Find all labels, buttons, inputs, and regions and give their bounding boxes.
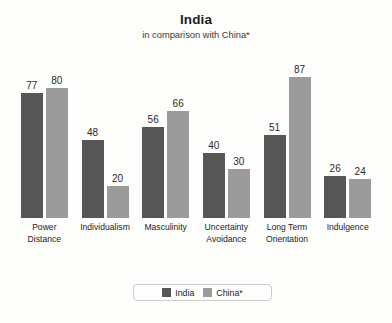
legend-swatch-icon-india bbox=[162, 288, 171, 297]
bar[interactable] bbox=[142, 127, 164, 218]
bar-value-label: 80 bbox=[42, 75, 72, 86]
bar[interactable] bbox=[228, 169, 250, 218]
bar[interactable] bbox=[324, 176, 346, 218]
category-label: PowerDistance bbox=[14, 222, 75, 245]
bar-group: 4030 bbox=[203, 54, 250, 218]
category-label: UncertaintyAvoidance bbox=[196, 222, 257, 245]
category-label-line: Orientation bbox=[257, 234, 318, 246]
bar-group: 2624 bbox=[324, 54, 371, 218]
bar[interactable] bbox=[82, 140, 104, 218]
category-label: Indulgence bbox=[317, 222, 378, 234]
bar[interactable] bbox=[107, 186, 129, 218]
title-block: India in comparison with China* bbox=[0, 12, 392, 41]
category-label-line: Long Term bbox=[257, 222, 318, 234]
chart-title: India bbox=[0, 12, 392, 27]
bar-group: 5187 bbox=[264, 54, 311, 218]
legend-label-china: China* bbox=[216, 288, 242, 298]
legend-swatch-icon-china bbox=[203, 288, 212, 297]
chart-subtitle: in comparison with China* bbox=[0, 29, 392, 41]
category-label-line: Masculinity bbox=[135, 222, 196, 234]
bar-value-label: 30 bbox=[224, 156, 254, 167]
bar[interactable] bbox=[46, 88, 68, 218]
category-label-line: Distance bbox=[14, 234, 75, 246]
category-label-line: Individualism bbox=[75, 222, 136, 234]
bar-value-label: 24 bbox=[345, 166, 375, 177]
category-label: Masculinity bbox=[135, 222, 196, 234]
plot-area: 778048205666403051872624 bbox=[14, 54, 378, 218]
bar-group: 7780 bbox=[21, 54, 68, 218]
bar-chart: India in comparison with China* 77804820… bbox=[0, 0, 392, 323]
bar[interactable] bbox=[203, 153, 225, 218]
legend-item-india[interactable]: India bbox=[162, 288, 194, 298]
category-label-line: Power bbox=[14, 222, 75, 234]
bar-value-label: 56 bbox=[138, 114, 168, 125]
bar[interactable] bbox=[349, 179, 371, 218]
legend-item-china[interactable]: China* bbox=[203, 288, 242, 298]
bar-value-label: 66 bbox=[163, 98, 193, 109]
bar-value-label: 48 bbox=[78, 127, 108, 138]
bar-group: 4820 bbox=[82, 54, 129, 218]
bar[interactable] bbox=[167, 111, 189, 218]
legend-label-india: India bbox=[175, 288, 194, 298]
category-label: Long TermOrientation bbox=[257, 222, 318, 245]
bar[interactable] bbox=[264, 135, 286, 218]
bar-group: 5666 bbox=[142, 54, 189, 218]
category-label-line: Uncertainty bbox=[196, 222, 257, 234]
bar[interactable] bbox=[289, 77, 311, 218]
category-label-line: Avoidance bbox=[196, 234, 257, 246]
bar[interactable] bbox=[21, 93, 43, 218]
bar-value-label: 40 bbox=[199, 140, 229, 151]
category-axis: PowerDistanceIndividualismMasculinityUnc… bbox=[14, 222, 378, 262]
category-label: Individualism bbox=[75, 222, 136, 234]
chart-legend: India China* bbox=[133, 284, 272, 301]
bar-value-label: 51 bbox=[260, 122, 290, 133]
bar-value-label: 87 bbox=[285, 64, 315, 75]
category-label-line: Indulgence bbox=[317, 222, 378, 234]
bar-value-label: 20 bbox=[103, 173, 133, 184]
